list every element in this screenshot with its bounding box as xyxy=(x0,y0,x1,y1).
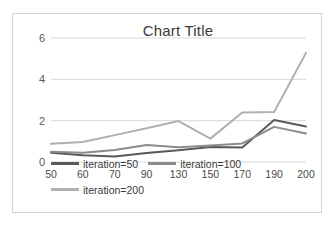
y-axis-tick-label: 4 xyxy=(39,73,45,85)
legend-item-label: iteration=200 xyxy=(83,184,144,196)
legend-color-swatch xyxy=(148,162,176,165)
chart-legend: iteration=50iteration=100 iteration=200 xyxy=(51,157,319,196)
legend-row-1: iteration=50iteration=100 xyxy=(51,157,319,170)
legend-item-label: iteration=50 xyxy=(83,158,138,170)
legend-item[interactable]: iteration=100 xyxy=(148,158,241,170)
chart-title: Chart Title xyxy=(13,22,321,39)
plot-area: 0246 xyxy=(51,38,306,162)
gridlines xyxy=(51,38,306,162)
legend-item[interactable]: iteration=50 xyxy=(51,158,138,170)
legend-item[interactable]: iteration=200 xyxy=(51,184,144,196)
legend-color-swatch xyxy=(51,188,79,191)
series-line xyxy=(51,120,306,156)
chart-plot-svg xyxy=(51,38,306,162)
chart-container: Chart Title 0246 50607090130150170190200… xyxy=(12,13,322,213)
legend-color-swatch xyxy=(51,162,79,165)
y-axis-tick-label: 0 xyxy=(39,156,45,168)
series-lines xyxy=(51,53,306,157)
y-axis-tick-label: 2 xyxy=(39,115,45,127)
legend-row-2: iteration=200 xyxy=(51,183,319,196)
y-axis-tick-label: 6 xyxy=(39,32,45,44)
legend-item-label: iteration=100 xyxy=(180,158,241,170)
